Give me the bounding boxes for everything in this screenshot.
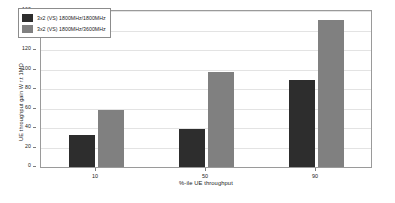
x-tick-mark	[95, 168, 96, 171]
x-tick-label: 50	[185, 173, 225, 179]
legend-item-0: 3x2 (VS) 1800MHz/1800MHz	[22, 12, 106, 23]
y-tick-mark	[33, 49, 36, 50]
y-tick-mark	[33, 166, 36, 167]
y-tick-mark	[33, 108, 36, 109]
y-tick-label: 0	[0, 163, 31, 168]
bar-90-series-1	[318, 20, 344, 167]
x-tick-label: 90	[295, 173, 335, 179]
x-tick-mark	[205, 168, 206, 171]
y-tick-label: 60	[0, 105, 31, 110]
y-tick-label: 20	[0, 144, 31, 149]
bar-50-series-0	[179, 129, 205, 167]
y-tick-mark	[33, 88, 36, 89]
legend-label-0: 3x2 (VS) 1800MHz/1800MHz	[37, 15, 106, 21]
legend-swatch-0	[22, 14, 33, 22]
y-tick-label: 100	[0, 66, 31, 71]
chart-legend: 3x2 (VS) 1800MHz/1800MHz3x2 (VS) 1800MHz…	[18, 8, 111, 38]
y-tick-label: 120	[0, 46, 31, 51]
bar-50-series-1	[208, 72, 234, 167]
y-tick-mark	[33, 69, 36, 70]
bar-10-series-0	[69, 135, 95, 167]
x-tick-mark	[315, 168, 316, 171]
y-tick-label: 80	[0, 85, 31, 90]
y-tick-mark	[33, 147, 36, 148]
legend-item-1: 3x2 (VS) 1800MHz/3600MHz	[22, 23, 106, 34]
x-axis-title: %-ile UE throughput	[40, 180, 372, 186]
bar-10-series-1	[98, 110, 124, 167]
legend-label-1: 3x2 (VS) 1800MHz/3600MHz	[37, 26, 106, 32]
y-tick-label: 40	[0, 124, 31, 129]
bar-90-series-0	[289, 80, 315, 167]
y-tick-mark	[33, 127, 36, 128]
chart-figure: UE throughput gain W r.t 1MO 02040608010…	[0, 0, 395, 203]
legend-swatch-1	[22, 25, 33, 33]
x-tick-label: 10	[75, 173, 115, 179]
